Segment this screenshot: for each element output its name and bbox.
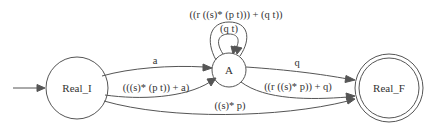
edge-real-i-to-real-f[interactable]: ((s)* p) xyxy=(104,97,355,115)
node-label: Real_I xyxy=(62,82,92,94)
edge-a-self-loop-outer[interactable]: ((r ((s)* (p t))) + (q t)) xyxy=(190,9,283,60)
node-label: A xyxy=(225,64,233,76)
node-label: Real_F xyxy=(373,82,405,94)
node-real-f[interactable]: Real_F xyxy=(355,54,423,122)
edge-label: ((s)* p) xyxy=(214,100,246,112)
edge-label: ((r ((s)* (p t))) + (q t)) xyxy=(190,9,283,21)
edge-label: (((s)* (p t)) + a) xyxy=(123,82,190,94)
node-real-i[interactable]: Real_I xyxy=(46,57,108,119)
edge-a-to-real-f-1[interactable]: q xyxy=(246,57,355,83)
automaton-diagram: Real_I A Real_F a (((s)* (p t)) + a) (q … xyxy=(0,0,430,130)
edge-real-i-to-a-1[interactable]: a xyxy=(102,55,212,76)
initial-arrow xyxy=(13,85,45,92)
edge-label: q xyxy=(294,57,300,68)
edge-a-to-real-f-2[interactable]: ((r ((s)* p)) + q) xyxy=(241,81,355,100)
node-a[interactable]: A xyxy=(212,53,246,87)
edge-label: (q t) xyxy=(220,23,238,35)
edge-real-i-to-a-2[interactable]: (((s)* (p t)) + a) xyxy=(105,78,216,97)
edge-label: ((r ((s)* p)) + q) xyxy=(264,81,332,93)
edge-label: a xyxy=(153,55,158,66)
